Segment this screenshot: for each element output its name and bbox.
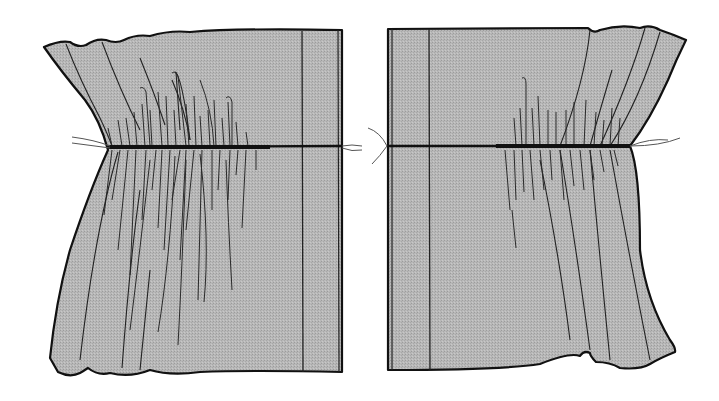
left-panel: [44, 29, 342, 375]
left-panel-fabric: [44, 29, 342, 375]
gathering-illustration: [0, 0, 719, 401]
right-panel: [388, 26, 686, 370]
